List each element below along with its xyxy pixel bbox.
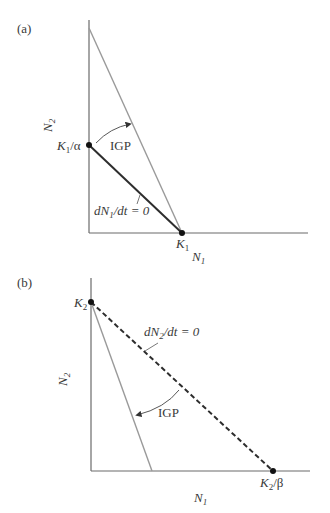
panel-b-k2-beta-label: K2/β — [259, 475, 284, 492]
isocline-diagram: (a) IGP K1/α K1 dN1/dt = 0 N2 N1 (b) — [0, 0, 330, 513]
panel-b: (b) IGP K2 K2/β dN2/dt = 0 N2 N1 — [17, 275, 310, 507]
panel-b-label: (b) — [17, 275, 32, 290]
panel-b-k2-label: K2 — [73, 295, 87, 312]
panel-a-k1-alpha-label: K1/α — [56, 138, 81, 155]
panel-b-k2-point — [88, 299, 94, 305]
panel-b-k2-beta-point — [270, 468, 276, 474]
panel-a-y-axis-label: N2 — [40, 118, 57, 133]
panel-a-isocline — [89, 145, 182, 233]
panel-b-y-axis-label: N2 — [55, 372, 72, 387]
panel-a-k1-alpha-point — [86, 142, 92, 148]
panel-a-label: (a) — [17, 21, 31, 36]
panel-a-igp-label: IGP — [110, 138, 131, 153]
panel-b-x-axis-label: N1 — [193, 490, 207, 507]
panel-b-igp-label: IGP — [158, 405, 179, 420]
panel-a: (a) IGP K1/α K1 dN1/dt = 0 N2 N1 — [17, 20, 308, 266]
panel-a-k1-label: K1 — [175, 236, 189, 253]
panel-a-x-axis-label: N1 — [191, 249, 205, 266]
panel-b-isocline-leader — [145, 343, 158, 351]
panel-b-isocline-label: dN2/dt = 0 — [144, 324, 200, 341]
panel-b-rotated-isocline — [91, 302, 152, 471]
panel-a-isocline-label: dN1/dt = 0 — [94, 203, 150, 220]
